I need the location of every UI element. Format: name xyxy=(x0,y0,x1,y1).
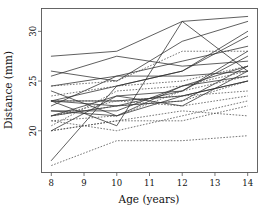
data-series-layer xyxy=(51,16,247,165)
x-tick-label: 14 xyxy=(242,178,253,188)
plot-frame xyxy=(42,9,258,173)
x-axis-label: Age (years) xyxy=(118,193,180,205)
y-tick-label: 20 xyxy=(29,125,39,136)
x-tick-label: 8 xyxy=(49,178,54,188)
y-tick-label: 25 xyxy=(29,76,39,87)
chart-figure: 891011121314 202530 Age (years) Distance… xyxy=(0,0,268,210)
x-tick-label: 9 xyxy=(81,178,86,188)
y-axis-ticks: 202530 xyxy=(29,26,42,136)
series-line xyxy=(51,16,247,56)
x-tick-label: 13 xyxy=(210,178,221,188)
x-tick-label: 12 xyxy=(177,178,188,188)
y-tick-label: 30 xyxy=(29,26,39,37)
x-tick-label: 11 xyxy=(144,178,155,188)
series-line xyxy=(51,111,247,131)
y-axis-label: Distance (mm) xyxy=(2,51,14,129)
series-line xyxy=(51,31,247,101)
series-line xyxy=(51,136,247,166)
spaghetti-plot: 891011121314 202530 Age (years) Distance… xyxy=(0,0,268,210)
x-tick-label: 10 xyxy=(111,178,122,188)
x-axis-ticks: 891011121314 xyxy=(49,173,253,188)
series-line xyxy=(51,81,247,101)
series-line xyxy=(51,66,247,96)
